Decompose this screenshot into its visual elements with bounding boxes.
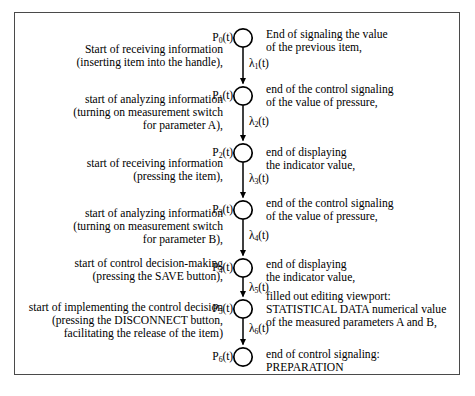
annotation-right-5: filled out editing viewport: STATISTICAL… [266,290,446,330]
annotation-left-2: start of receiving information (pressing… [87,157,223,183]
place-P3 [234,201,252,219]
transition-label-L3: λ3(t) [249,173,269,185]
place-P0 [234,29,252,47]
annotation-right-1: end of the control signaling of the valu… [266,83,394,109]
place-P4 [234,259,252,277]
annotation-left-4: start of control decision-making (pressi… [75,257,223,283]
annotation-left-0: Start of receiving information (insertin… [77,43,224,69]
annotation-right-0: End of signaling the value of the previo… [266,28,388,54]
place-P2 [234,144,252,162]
transition-label-L2: λ2(t) [249,116,269,128]
annotation-right-3: end of the control signaling of the valu… [266,197,394,223]
place-label-P0: P0(t) [212,32,233,44]
annotation-right-4: end of displaying the indicator value, [266,258,355,284]
place-P6 [234,348,252,366]
annotation-right-6: end of control signaling: PREPARATION [266,348,380,374]
place-label-P6: P6(t) [212,351,233,363]
place-P1 [234,87,252,105]
annotation-left-5: start of implementing the control decisi… [29,301,223,341]
annotation-left-3: start of analyzing information (turning … [73,207,223,247]
annotation-left-1: start of analyzing information (turning … [73,93,223,133]
place-P5 [234,300,252,318]
transition-label-L4: λ4(t) [249,230,269,242]
figure-border: P0(t) P1(t) P2(t) P3(t) P4(t) P5(t) P6(t… [14,12,460,375]
annotation-right-2: end of displaying the indicator value, [266,146,355,172]
transition-label-L1: λ1(t) [249,58,269,70]
